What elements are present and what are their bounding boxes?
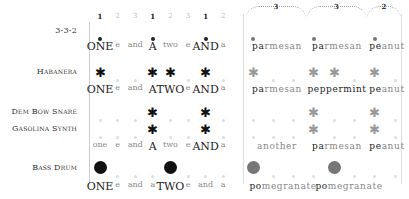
row-label-gasolina-synth: Gasolina Synth — [12, 124, 77, 133]
count-syllable: two — [163, 140, 178, 149]
rest-dot — [305, 165, 323, 181]
rest-dot — [109, 165, 127, 181]
rest-dot — [346, 165, 364, 181]
count-syllable: e — [115, 83, 120, 92]
rest-dot — [126, 109, 144, 125]
hit-big-dot — [91, 161, 109, 177]
rest-dot — [264, 69, 282, 85]
count-syllable: two — [163, 40, 178, 49]
mnemonic-word: peanut — [369, 84, 404, 94]
count-syllable: a — [221, 40, 226, 49]
rest-dot — [366, 165, 384, 181]
rest-dot — [386, 126, 404, 142]
count-syllable: e — [186, 83, 191, 92]
hit-star-icon: ✱ — [144, 104, 162, 120]
row-label-habanera: Habanera — [37, 67, 77, 76]
hit-star-icon: ✱ — [366, 104, 384, 120]
mnemonic-word: another — [257, 141, 297, 151]
hit-star-icon: ✱ — [197, 104, 215, 120]
count-syllable: e — [186, 140, 191, 149]
rest-dot — [264, 165, 282, 181]
count-syllable: and — [128, 140, 143, 149]
hit-star-icon: ✱ — [325, 64, 343, 80]
beat-count: 1 — [91, 13, 109, 20]
rest-dot — [346, 109, 364, 125]
count-syllable: and — [128, 180, 143, 189]
hit-star-icon: ✱ — [197, 121, 215, 137]
count-syllable: ONE — [87, 83, 114, 96]
count-syllable: a — [221, 83, 226, 92]
hit-star-icon: ✱ — [366, 121, 384, 137]
hit-big-dot — [161, 161, 179, 177]
mnemonic-word: pomegranate — [315, 181, 382, 191]
rest-dot — [91, 109, 109, 125]
count-syllable: and — [128, 40, 143, 49]
hit-big-dot — [244, 161, 262, 177]
count-syllable: e — [186, 180, 191, 189]
rest-dot — [386, 165, 404, 181]
count-syllable: AND — [192, 83, 218, 96]
rest-dot — [285, 126, 303, 142]
count-syllable: a — [150, 180, 155, 189]
rest-dot — [126, 165, 144, 181]
count-syllable: ONE — [87, 180, 114, 193]
beat-count: 2 — [109, 13, 127, 20]
rest-dot — [264, 126, 282, 142]
grid-right-border — [401, 14, 402, 184]
count-syllable: A — [149, 40, 157, 53]
rest-dot — [325, 126, 343, 142]
hit-star-icon: ✱ — [144, 121, 162, 137]
mnemonic-word: peanut — [369, 141, 404, 151]
row-label-dem-bow-snare: Dem Bow Snare — [11, 107, 77, 116]
rest-dot — [244, 109, 262, 125]
rest-dot — [109, 109, 127, 125]
count-syllable: e — [115, 180, 120, 189]
count-syllable: and — [128, 83, 143, 92]
mnemonic-word: peanut — [369, 41, 404, 51]
rest-dot — [346, 126, 364, 142]
grouping-number: 3 — [334, 2, 339, 11]
hit-star-icon: ✱ — [244, 64, 262, 80]
count-syllable: a — [221, 140, 226, 149]
beat-count: 2 — [214, 13, 232, 20]
rest-dot — [179, 165, 197, 181]
mnemonic-word: parmesan — [252, 84, 302, 94]
rest-dot — [325, 109, 343, 125]
rest-dot — [214, 165, 232, 181]
rest-dot — [285, 69, 303, 85]
beat-count: 3 — [126, 13, 144, 20]
grouping-number: 2 — [382, 2, 387, 11]
count-syllable: AND — [192, 40, 218, 53]
rest-dot — [197, 165, 215, 181]
rest-dot — [244, 126, 262, 142]
count-syllable: A — [149, 140, 157, 153]
hit-star-icon: ✱ — [197, 64, 215, 80]
count-syllable: e — [186, 40, 191, 49]
rest-dot — [264, 109, 282, 125]
count-syllable: ONE — [87, 40, 114, 53]
count-syllable: TWO — [157, 83, 185, 96]
rest-dot — [285, 165, 303, 181]
beat-count: 2 — [161, 13, 179, 20]
hit-star-icon: ✱ — [305, 121, 323, 137]
rest-dot — [161, 109, 179, 125]
hit-star-icon: ✱ — [366, 64, 384, 80]
row-label-3-3-2: 3-3-2 — [55, 26, 77, 35]
count-syllable: and — [198, 180, 213, 189]
rest-dot — [144, 165, 162, 181]
mnemonic-word: parmesan — [252, 41, 302, 51]
hit-star-icon: ✱ — [305, 64, 323, 80]
rest-dot — [346, 69, 364, 85]
count-syllable: a — [221, 180, 226, 189]
beat-count: 1 — [197, 13, 215, 20]
rest-dot — [386, 109, 404, 125]
hit-star-icon: ✱ — [91, 64, 109, 80]
row-label-bass-drum: Bass Drum — [32, 163, 77, 172]
mnemonic-word: parmesan — [312, 41, 362, 51]
hit-star-icon: ✱ — [144, 64, 162, 80]
count-syllable: TWO — [157, 180, 185, 193]
mnemonic-word: peppermint — [307, 84, 366, 94]
count-syllable: e — [115, 140, 120, 149]
rest-dot — [285, 109, 303, 125]
hit-star-icon: ✱ — [305, 104, 323, 120]
